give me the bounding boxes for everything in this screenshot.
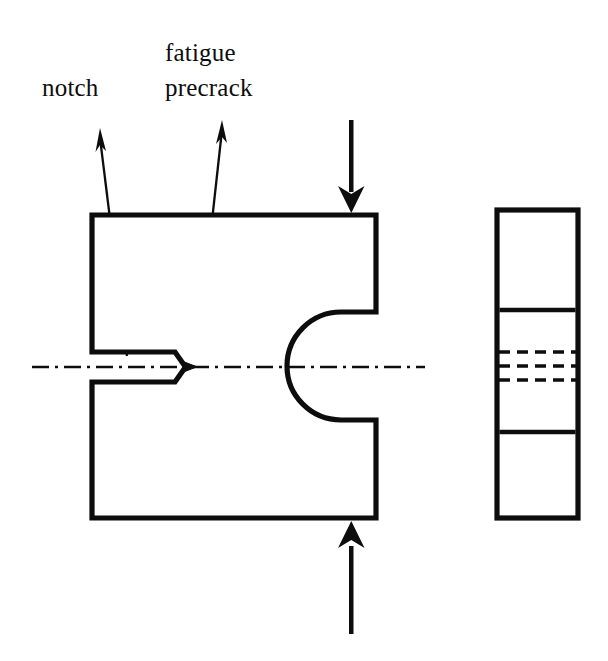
notch-label: notch [42, 74, 99, 101]
fatigue-precrack-label-line1: fatigue [165, 39, 236, 66]
fatigue-precrack-label-line2: precrack [165, 74, 253, 101]
specimen-side-view [497, 210, 578, 518]
upper-load-arrow-shaft [349, 120, 354, 192]
fracture-specimen-diagram: notch fatigue precrack [0, 0, 608, 661]
side-view-outline [497, 210, 578, 518]
figure-container: notch fatigue precrack [0, 0, 608, 661]
lower-load-arrow-shaft [349, 546, 354, 634]
